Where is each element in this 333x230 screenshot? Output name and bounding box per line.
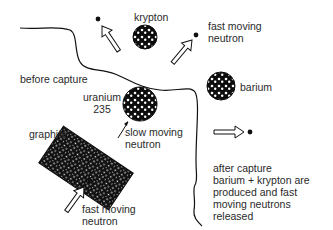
neutron-dot-top-left	[96, 17, 101, 22]
label-fast-neutron-top-line1: fast moving	[208, 20, 262, 32]
arrow-up-left-icon	[97, 23, 124, 55]
label-after-capture-line1: after capture	[213, 162, 310, 174]
arrow-right-icon	[214, 126, 244, 138]
neutron-dot-incoming	[88, 179, 93, 184]
label-uranium-line1: uranium	[82, 91, 122, 103]
label-uranium-235: uranium 235	[82, 91, 122, 115]
barium-nucleus	[207, 72, 235, 100]
label-graphite: graphite	[29, 128, 67, 140]
label-uranium-line2: 235	[82, 103, 122, 115]
arrow-up-right-icon	[168, 36, 196, 67]
label-fast-neutron-top: fast moving neutron	[208, 20, 262, 44]
label-after-capture: after capture barium + krypton are produ…	[213, 162, 310, 222]
uranium-235-nucleus	[123, 87, 157, 121]
label-krypton: krypton	[134, 11, 168, 23]
label-after-capture-line4: moving neutrons	[213, 198, 310, 210]
label-slow-neutron: slow moving neutron	[125, 126, 183, 150]
neutron-dot-top-right	[194, 33, 199, 38]
neutron-dot-right	[248, 130, 253, 135]
label-barium: barium	[240, 81, 272, 93]
label-slow-neutron-line1: slow moving	[125, 126, 183, 138]
label-after-capture-line5: released	[213, 210, 310, 222]
label-before-capture: before capture	[20, 73, 88, 85]
krypton-nucleus	[133, 25, 157, 49]
label-after-capture-line3: produced and fast	[213, 186, 310, 198]
label-fast-neutron-bottom: fast moving neutron	[82, 203, 136, 227]
label-fast-neutron-top-line2: neutron	[208, 32, 262, 44]
label-after-capture-line2: barium + krypton are	[213, 174, 310, 186]
label-fast-neutron-bottom-line2: neutron	[82, 215, 136, 227]
label-slow-neutron-line2: neutron	[125, 138, 183, 150]
label-fast-neutron-bottom-line1: fast moving	[82, 203, 136, 215]
